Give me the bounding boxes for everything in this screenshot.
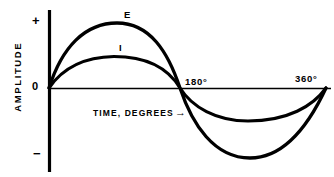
x-tick-360: 360° (295, 74, 317, 84)
y-tick-positive: + (32, 14, 40, 27)
right-arrow-icon: → (175, 106, 186, 118)
x-tick-180: 180° (185, 77, 207, 87)
y-tick-zero: 0 (32, 81, 39, 92)
series-label-i: I (119, 43, 122, 53)
x-axis-label: TIME, DEGREES→ (93, 107, 186, 118)
chart-plot-area (0, 0, 334, 177)
x-axis-label-text: TIME, DEGREES (93, 108, 174, 118)
sine-wave-chart: AMPLITUDE + 0 − E I 180° 360° TIME, DEGR… (0, 0, 334, 177)
y-axis-label: AMPLITUDE (13, 27, 23, 127)
series-label-e: E (124, 10, 131, 20)
curve-e-voltage (49, 23, 326, 158)
y-tick-negative: − (33, 147, 41, 160)
